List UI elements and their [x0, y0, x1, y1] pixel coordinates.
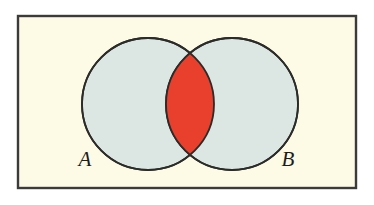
venn-diagram-canvas: A B [0, 0, 374, 205]
set-b-label: B [282, 147, 295, 171]
set-a-label: A [77, 147, 92, 171]
venn-diagram-figure: A B [0, 0, 374, 205]
